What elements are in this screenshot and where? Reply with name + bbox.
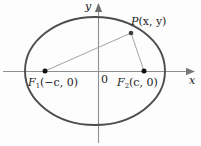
focus-2-dot [142,69,147,74]
y-axis-arrowhead-icon [95,3,102,12]
segment-f2-to-p [131,33,144,71]
focus-1-label: F1(−c, 0) [28,77,78,88]
point-p-dot [129,31,134,36]
point-p-label-coords: (x, y) [138,15,166,28]
focus-1-dot [43,69,48,74]
ellipse-foci-diagram: y x 0 P(x, y) F1(−c, 0) F2(c, 0) [0,0,201,146]
focus-2-label-coords: (c, 0) [129,76,158,89]
y-axis-label: y [85,1,91,12]
focus-1-label-coords: (−c, 0) [40,76,78,89]
origin-label: 0 [101,74,108,85]
point-p-label: P(x, y) [131,16,166,27]
x-axis-label: x [189,75,195,86]
focus-1-label-symbol: F [28,76,36,89]
focus-2-label: F2(c, 0) [117,77,158,88]
segment-f1-to-p [45,33,131,71]
focus-2-label-symbol: F [117,76,125,89]
